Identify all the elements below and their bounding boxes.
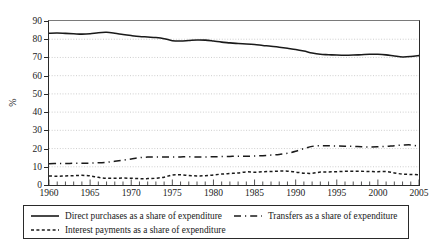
x-tick-label: 1975 [152,188,192,198]
legend-entry-transfers: Transfers as a share of expenditure [233,209,398,223]
y-tick-label: 60 [14,71,42,81]
chart-legend: Direct purchases as a share of expenditu… [23,205,409,239]
x-tick-label: 1995 [317,188,357,198]
chart-figure: % 9080706050403020100 196019651970197519… [0,0,432,248]
y-tick-label: 20 [14,144,42,154]
legend-entry-direct-purchases: Direct purchases as a share of expenditu… [30,209,222,223]
y-tick-label: 10 [14,162,42,172]
x-tick-label: 1960 [29,188,69,198]
legend-entry-interest-payments: Interest payments as a share of expendit… [30,223,226,237]
x-tick-label: 1990 [276,188,316,198]
x-tick-label: 2005 [399,188,432,198]
x-tick-label: 1985 [235,188,275,198]
y-tick-label: 90 [14,16,42,26]
solid-line-key [30,211,60,221]
dashed-line-key [233,211,263,221]
legend-label-direct-purchases: Direct purchases as a share of expenditu… [65,211,222,221]
x-tick-label: 2000 [358,188,398,198]
y-tick-label: 40 [14,107,42,117]
x-tick-label: 1970 [111,188,151,198]
y-tick-label: 50 [14,89,42,99]
x-tick-label: 1980 [193,188,233,198]
legend-row-secondary: Interest payments as a share of expendit… [30,223,226,237]
series-line-1 [49,145,419,164]
dotted-line-key [30,225,60,235]
series-line-2 [49,171,419,179]
series-line-0 [49,32,419,57]
legend-row-primary: Direct purchases as a share of expenditu… [30,209,397,223]
plot-area [48,20,420,186]
chart-canvas [49,21,419,185]
gridlines [49,39,419,167]
x-axis-minor-ticks [49,180,419,186]
series-group [49,32,419,178]
y-tick-label: 70 [14,52,42,62]
x-tick-label: 1965 [70,188,110,198]
y-tick-label: 80 [14,34,42,44]
y-tick-label: 30 [14,125,42,135]
legend-label-transfers: Transfers as a share of expenditure [268,211,398,221]
legend-label-interest-payments: Interest payments as a share of expendit… [65,225,226,235]
